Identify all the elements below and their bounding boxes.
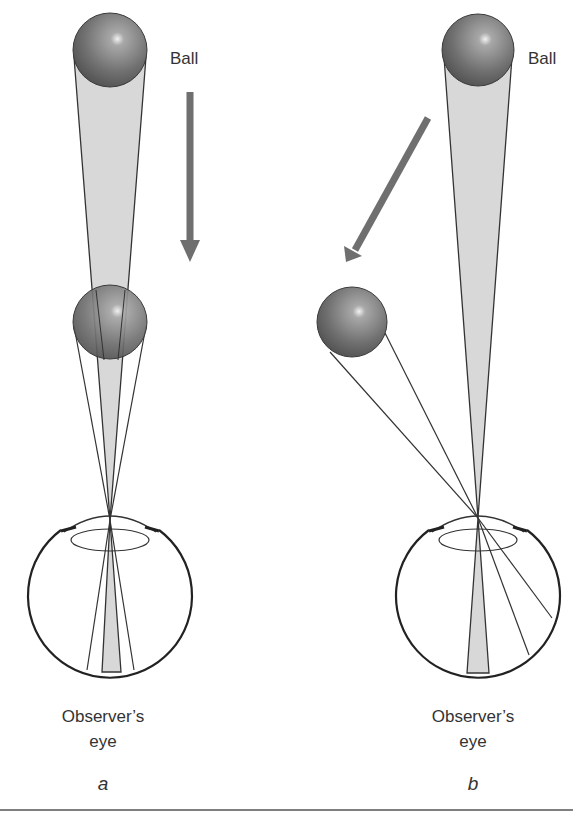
eye-label-b-line2: eye	[459, 732, 486, 751]
ball-near-icon	[73, 285, 147, 359]
panel-b: Ball Observer’s eye b	[317, 14, 560, 794]
eye-label-a-line2: eye	[89, 732, 116, 751]
ball-far-icon	[442, 14, 514, 86]
ball-label-a: Ball	[170, 49, 198, 68]
ball-label-b: Ball	[528, 49, 556, 68]
retinal-image-small	[102, 520, 121, 672]
iris-left	[61, 527, 76, 531]
panel-a: Ball Observer’s eye a	[28, 13, 200, 794]
motion-arrow-diagonal	[355, 118, 428, 250]
ray-displaced-upper	[385, 333, 478, 518]
ball-far-icon	[73, 13, 147, 87]
panel-letter-a: a	[98, 773, 109, 794]
ray-displaced-lower	[330, 352, 478, 518]
ray-displaced-lower-inner	[478, 518, 552, 618]
iris-left	[429, 527, 444, 531]
panel-letter-b: b	[468, 773, 479, 794]
eye-label-b-line1: Observer’s	[432, 707, 515, 726]
figure-canvas: Ball Observer’s eye a Ball	[0, 0, 573, 816]
motion-arrowhead-down	[180, 240, 200, 262]
iris-right	[145, 527, 159, 531]
eye-label-a-line1: Observer’s	[62, 707, 145, 726]
light-cone-far	[444, 57, 512, 518]
iris-right	[513, 527, 527, 531]
ball-displaced-icon	[317, 287, 387, 357]
retinal-image	[467, 518, 489, 673]
